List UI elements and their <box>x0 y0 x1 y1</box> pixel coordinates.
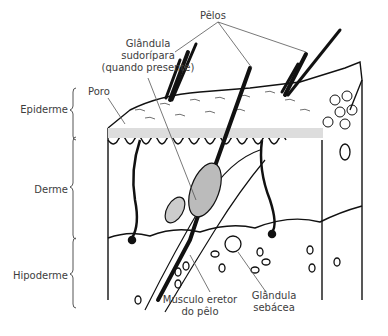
skin-cross-section-illustration <box>0 0 388 336</box>
layer-braces <box>70 88 76 308</box>
label-hairs: Pêlos <box>200 10 226 22</box>
label-sebaceous-gland-line2: sebácea <box>244 302 304 314</box>
label-hypodermis: Hipoderme <box>0 270 68 282</box>
label-sebaceous-gland-line1: Glândula <box>244 290 304 302</box>
label-pore: Poro <box>88 86 110 98</box>
label-sweat-gland-line1: Glândula <box>108 38 188 50</box>
epidermis-stipple <box>108 128 323 138</box>
label-sweat-gland-line2: sudorípara <box>108 50 188 62</box>
epidermal-cells <box>323 91 357 129</box>
label-epidermis: Epiderme <box>10 104 68 116</box>
label-arrector-muscle-line1: Músculo eretor <box>150 294 250 306</box>
skin-block <box>108 62 362 300</box>
label-dermis: Derme <box>10 184 68 196</box>
sebaceous-gland-body <box>182 159 227 221</box>
label-sweat-gland-line3: (quando presente) <box>93 62 203 74</box>
label-arrector-muscle-line2: do pêlo <box>150 306 250 318</box>
